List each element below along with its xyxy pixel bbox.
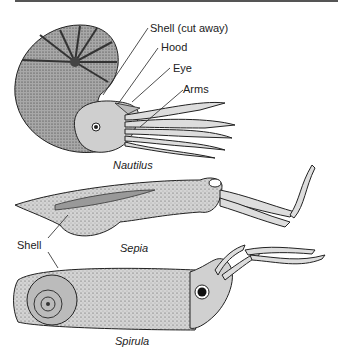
- caption-nautilus: Nautilus: [113, 159, 153, 171]
- spirula-drawing: [14, 245, 326, 330]
- label-hood: Hood: [161, 41, 187, 53]
- caption-spirula: Spirula: [115, 335, 149, 347]
- label-arms: Arms: [183, 83, 209, 95]
- caption-sepia: Sepia: [120, 242, 148, 254]
- sepia-drawing: [15, 165, 315, 236]
- cephalopod-illustration: [0, 0, 338, 356]
- label-eye: Eye: [173, 62, 192, 74]
- label-shell-cut-away: Shell (cut away): [150, 22, 228, 34]
- label-shell: Shell: [17, 239, 41, 251]
